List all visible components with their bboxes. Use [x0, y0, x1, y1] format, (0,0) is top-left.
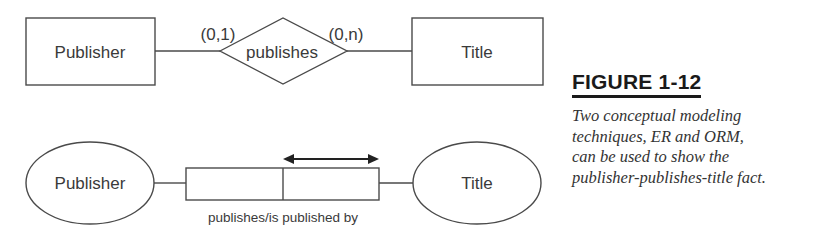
figure-caption: Two conceptual modeling techniques, ER a…	[572, 106, 822, 188]
uniqueness-arrow-left-head-icon	[283, 154, 294, 164]
caption-line: publisher-publishes-title fact.	[572, 168, 822, 189]
caption-line: techniques, ER and ORM,	[572, 127, 822, 148]
er-relationship-label: publishes	[246, 43, 318, 62]
er-cardinality-right: (0,n)	[329, 25, 364, 44]
er-entity-title-label: Title	[461, 43, 493, 62]
orm-object-title-label: Title	[461, 174, 493, 193]
caption-line: Two conceptual modeling	[572, 106, 822, 127]
uniqueness-arrow-right-head-icon	[368, 154, 379, 164]
orm-object-publisher-label: Publisher	[55, 174, 126, 193]
figure-label: FIGURE 1-12	[572, 70, 701, 98]
caption-line: can be used to show the	[572, 147, 822, 168]
er-entity-publisher-label: Publisher	[55, 43, 126, 62]
orm-fact-reading: publishes/is published by	[208, 210, 358, 225]
er-cardinality-left: (0,1)	[201, 25, 236, 44]
